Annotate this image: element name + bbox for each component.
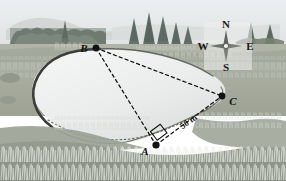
point-C-label: C (229, 95, 237, 107)
compass-label-east: E (246, 40, 253, 52)
far-treeline-left (10, 28, 106, 45)
point-B-label: B (79, 42, 87, 54)
compass-label-west: W (198, 40, 209, 52)
point-B-marker (93, 45, 100, 52)
survey-figure-svg: A B C 50 m (0, 0, 286, 181)
point-A-marker (152, 141, 159, 148)
illustration-root: A B C 50 m (0, 0, 286, 181)
compass-label-north: N (222, 18, 230, 30)
figure-artboard: A B C 50 m (0, 0, 286, 181)
compass-label-south: S (223, 61, 229, 73)
compass-rose: N S W E (198, 18, 254, 73)
point-A-label: A (140, 145, 148, 157)
point-C-marker (219, 93, 226, 100)
